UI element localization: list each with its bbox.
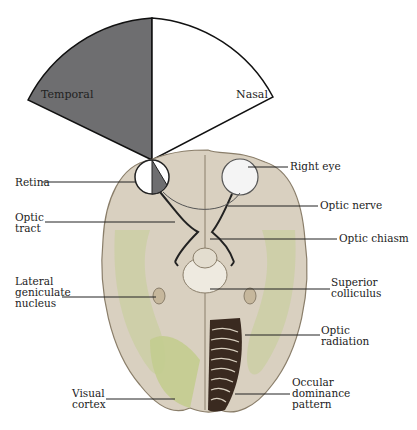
label-nasal: Nasal bbox=[236, 89, 268, 100]
label-lateral-geniculate-nucleus: Lateralgeniculatenucleus bbox=[15, 276, 71, 309]
right-eye bbox=[222, 159, 258, 195]
brain-illustration bbox=[102, 150, 307, 412]
label-optic-radiation: Opticradiation bbox=[321, 325, 369, 347]
diagram-canvas bbox=[0, 0, 417, 430]
label-optic-nerve: Optic nerve bbox=[320, 200, 382, 211]
label-retina: Retina bbox=[15, 177, 50, 188]
label-optic-chiasm: Optic chiasm bbox=[339, 233, 409, 244]
label-optic-tract: Optictract bbox=[15, 212, 44, 234]
label-superior-colliculus: Superiorcolliculus bbox=[331, 277, 381, 299]
label-right-eye: Right eye bbox=[290, 161, 341, 172]
label-ocular-dominance-pattern: Occulardominancepattern bbox=[292, 377, 350, 410]
label-visual-cortex: Visualcortex bbox=[72, 388, 106, 410]
label-temporal: Temporal bbox=[41, 89, 93, 100]
